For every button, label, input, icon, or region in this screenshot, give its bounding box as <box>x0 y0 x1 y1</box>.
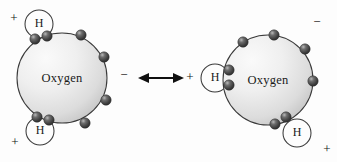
hydrogen-label-bottom-right: H <box>293 125 302 139</box>
bond-electron <box>224 65 234 75</box>
charge-sign-positive-top-left: + <box>10 10 17 25</box>
bond-electron <box>44 115 54 125</box>
bond-electron <box>32 112 42 122</box>
molecule-left: Oxygen H H + + − <box>10 10 127 149</box>
bond-electron <box>270 119 280 129</box>
bond-electron <box>224 80 234 90</box>
charge-sign-positive-left: + <box>186 69 193 84</box>
resonance-arrow <box>138 73 184 83</box>
arrow-head-right <box>173 73 184 83</box>
lone-electron <box>269 30 279 40</box>
bond-electron <box>281 112 291 122</box>
water-dipole-diagram: Oxygen H H + + − <box>0 0 337 162</box>
oxygen-label-right: Oxygen <box>248 73 289 87</box>
lone-electron <box>99 52 109 62</box>
hydrogen-label-top-left: H <box>35 16 44 30</box>
lone-electron <box>300 44 310 54</box>
lone-electron <box>80 118 90 128</box>
bond-electron <box>30 34 40 44</box>
charge-sign-positive-bottom-left: + <box>11 134 18 149</box>
lone-electron <box>76 30 86 40</box>
lone-electron <box>308 76 318 86</box>
lone-electron <box>101 95 111 105</box>
charge-sign-positive-bottom-right: + <box>323 141 330 156</box>
hydrogen-label-left: H <box>211 70 220 84</box>
hydrogen-label-bottom-left: H <box>36 123 45 137</box>
molecule-right: Oxygen H H + + − <box>186 14 330 156</box>
charge-sign-negative-right: − <box>120 67 127 82</box>
arrow-head-left <box>138 73 149 83</box>
diagram-canvas: Oxygen H H + + − <box>0 0 337 162</box>
charge-sign-negative-top-right: − <box>313 14 320 29</box>
bond-electron <box>42 31 52 41</box>
oxygen-label-left: Oxygen <box>42 71 83 85</box>
lone-electron <box>238 37 248 47</box>
